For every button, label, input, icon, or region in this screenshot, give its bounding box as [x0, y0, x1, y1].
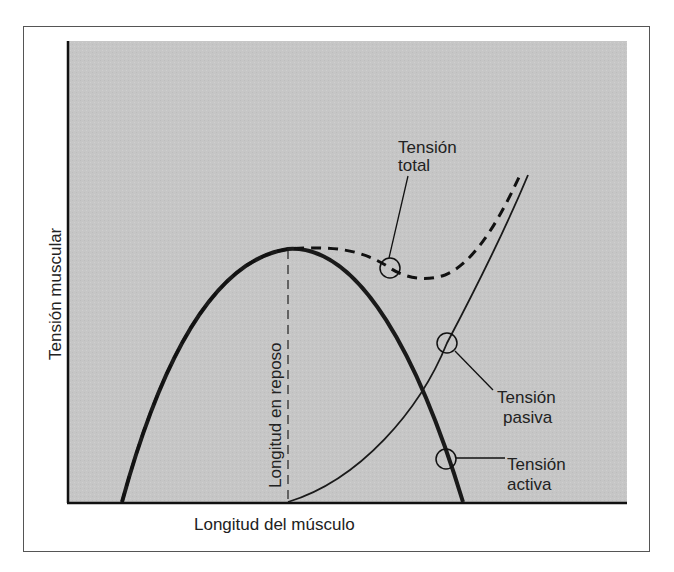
- y-axis-label: Tensión muscular: [46, 227, 65, 360]
- total-label-line1: Tensión: [398, 138, 457, 157]
- passive-label-line2: pasiva: [503, 408, 553, 427]
- total-label-line2: total: [398, 156, 430, 175]
- rest-length-label: Longitud en reposo: [266, 342, 285, 488]
- length-tension-diagram: Tensión total Tensión pasiva Tensión act…: [0, 0, 674, 572]
- active-label-line2: activa: [507, 475, 552, 494]
- x-axis-label: Longitud del músculo: [194, 515, 355, 534]
- passive-label-line1: Tensión: [497, 388, 556, 407]
- active-label-line1: Tensión: [507, 455, 566, 474]
